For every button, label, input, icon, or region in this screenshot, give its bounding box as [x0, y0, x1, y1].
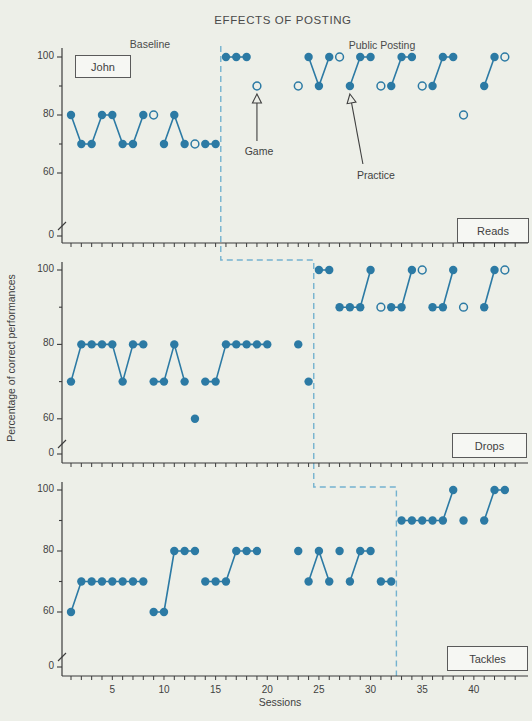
- y-axis-title: Percentage of correct performances: [5, 228, 17, 488]
- data-segment-line: [391, 270, 412, 307]
- data-point: [129, 340, 137, 348]
- data-point: [315, 82, 323, 90]
- data-point: [325, 266, 333, 274]
- data-point: [222, 577, 230, 585]
- phase-label-public-posting: Public Posting: [327, 39, 437, 52]
- data-point: [129, 140, 137, 148]
- data-segment-line: [71, 344, 143, 381]
- chart-canvas: [0, 0, 532, 721]
- y-tick-label-panel2-0: 0: [24, 447, 54, 458]
- data-point: [191, 415, 199, 423]
- data-point: [160, 608, 168, 616]
- data-segment-line: [433, 57, 454, 86]
- data-point: [149, 608, 157, 616]
- y-tick-label-panel3-80: 80: [24, 544, 54, 555]
- data-point: [253, 340, 261, 348]
- data-point: [77, 340, 85, 348]
- phase-label-baseline: Baseline: [110, 38, 190, 51]
- data-point: [191, 547, 199, 555]
- y-tick-label-panel1-0: 0: [24, 229, 54, 240]
- data-point: [335, 547, 343, 555]
- data-point: [87, 577, 95, 585]
- y-tick-label-panel3-0: 0: [24, 660, 54, 671]
- data-point: [201, 577, 209, 585]
- data-point: [108, 577, 116, 585]
- y-tick-label-panel3-100: 100: [24, 483, 54, 494]
- data-point-open: [377, 303, 385, 311]
- data-point: [439, 53, 447, 61]
- data-point: [242, 547, 250, 555]
- data-point: [335, 303, 343, 311]
- data-point: [480, 82, 488, 90]
- data-point: [356, 303, 364, 311]
- data-segment-line: [205, 344, 267, 381]
- data-point: [408, 53, 416, 61]
- data-point: [160, 140, 168, 148]
- data-point: [480, 516, 488, 524]
- x-tick-label-25: 25: [307, 684, 331, 695]
- data-point: [180, 140, 188, 148]
- data-point: [408, 266, 416, 274]
- data-point: [87, 140, 95, 148]
- data-segment-line: [402, 490, 454, 521]
- data-point: [325, 53, 333, 61]
- data-point: [315, 547, 323, 555]
- data-point: [170, 547, 178, 555]
- annotation-practice-label: Practice: [336, 169, 416, 182]
- data-point: [232, 53, 240, 61]
- data-segment-line: [71, 582, 143, 613]
- data-point: [449, 53, 457, 61]
- data-segment-line: [205, 551, 257, 582]
- data-point: [439, 516, 447, 524]
- x-tick-label-10: 10: [152, 684, 176, 695]
- chart-page: EFFECTS OF POSTING Baseline Public Posti…: [0, 0, 532, 721]
- y-tick-label-panel2-100: 100: [24, 263, 54, 274]
- data-point: [253, 547, 261, 555]
- data-point: [211, 140, 219, 148]
- data-point: [397, 53, 405, 61]
- data-segment-line: [154, 551, 195, 612]
- data-point: [98, 577, 106, 585]
- data-point: [67, 608, 75, 616]
- x-tick-label-20: 20: [255, 684, 279, 695]
- data-point: [149, 377, 157, 385]
- x-tick-label-35: 35: [410, 684, 434, 695]
- x-tick-label-15: 15: [204, 684, 228, 695]
- data-point: [201, 377, 209, 385]
- data-point: [170, 340, 178, 348]
- data-point: [242, 53, 250, 61]
- data-point: [67, 111, 75, 119]
- data-segment-line: [484, 57, 494, 86]
- data-point-open: [150, 111, 158, 119]
- data-point-open: [191, 140, 199, 148]
- y-tick-label-panel3-60: 60: [24, 605, 54, 616]
- data-point: [118, 140, 126, 148]
- data-point: [397, 516, 405, 524]
- data-point: [98, 111, 106, 119]
- x-tick-label-5: 5: [100, 684, 124, 695]
- data-point: [180, 547, 188, 555]
- practice-arrow-shaft: [352, 103, 363, 164]
- data-segment-line: [309, 551, 330, 582]
- data-point: [449, 266, 457, 274]
- data-point: [397, 303, 405, 311]
- y-tick-label-panel1-60: 60: [24, 166, 54, 177]
- data-point: [98, 340, 106, 348]
- data-point: [490, 266, 498, 274]
- data-point: [366, 266, 374, 274]
- data-point: [356, 547, 364, 555]
- data-point-open: [294, 82, 302, 90]
- data-point: [222, 53, 230, 61]
- data-segment-line: [484, 490, 505, 521]
- data-point-open: [253, 82, 261, 90]
- data-point: [366, 53, 374, 61]
- data-point: [449, 486, 457, 494]
- data-point: [77, 577, 85, 585]
- data-point: [139, 111, 147, 119]
- data-point: [439, 303, 447, 311]
- data-point: [356, 53, 364, 61]
- data-segment-line: [484, 270, 494, 307]
- data-point: [346, 303, 354, 311]
- y-tick-label-panel2-60: 60: [24, 412, 54, 423]
- data-point: [294, 547, 302, 555]
